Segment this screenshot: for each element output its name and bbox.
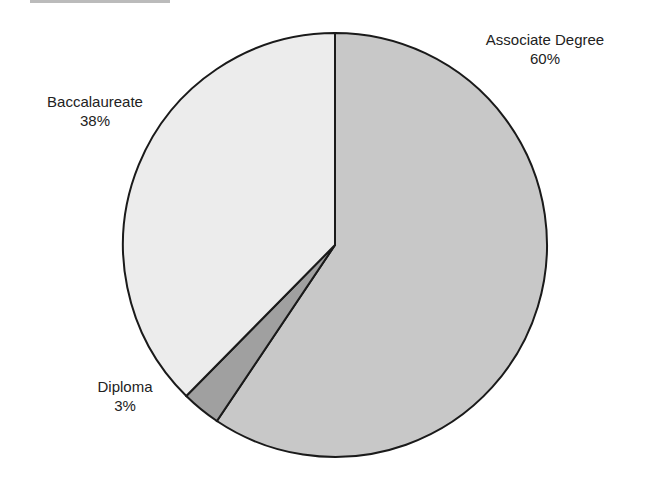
- label-diploma: Diploma 3%: [85, 377, 165, 415]
- label-baccalaureate-pct: 38%: [30, 111, 160, 130]
- label-associate-degree: Associate Degree 60%: [470, 30, 620, 68]
- label-baccalaureate-name: Baccalaureate: [30, 92, 160, 111]
- label-diploma-name: Diploma: [85, 377, 165, 396]
- label-diploma-pct: 3%: [85, 396, 165, 415]
- label-associate-name: Associate Degree: [470, 30, 620, 49]
- label-baccalaureate: Baccalaureate 38%: [30, 92, 160, 130]
- label-associate-pct: 60%: [470, 49, 620, 68]
